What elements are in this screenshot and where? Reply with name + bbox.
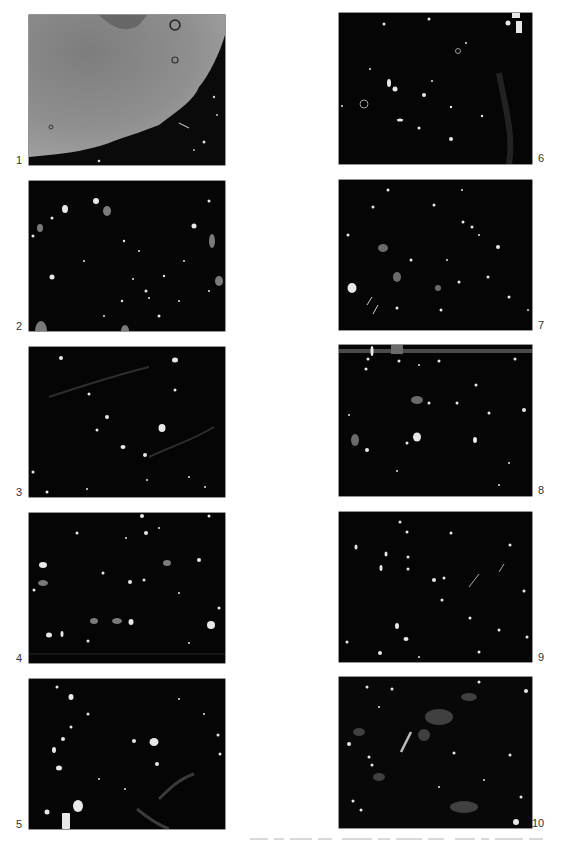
micrograph-panel-5	[29, 679, 225, 829]
panel-label-4: 4	[16, 653, 22, 664]
micrograph-panel-9	[339, 512, 532, 662]
micrograph-image-9	[339, 512, 532, 662]
panel-label-6: 6	[538, 153, 544, 164]
micrograph-image-1	[29, 15, 225, 165]
panel-label-9: 9	[538, 652, 544, 663]
micrograph-panel-1	[29, 15, 225, 165]
micrograph-panel-2	[29, 181, 225, 331]
micrograph-image-4	[29, 513, 225, 663]
micrograph-image-8	[339, 345, 532, 496]
panel-label-3: 3	[16, 487, 22, 498]
micrograph-panel-8	[339, 345, 532, 496]
micrograph-panel-3	[29, 347, 225, 497]
micrograph-image-5	[29, 679, 225, 829]
panel-label-10: 10	[532, 818, 544, 829]
micrograph-panel-7	[339, 180, 532, 330]
micrograph-figure: 1 2	[0, 0, 564, 845]
caption-fragment	[250, 838, 560, 845]
micrograph-panel-4	[29, 513, 225, 663]
micrograph-panel-6	[339, 13, 532, 164]
micrograph-panel-10	[339, 677, 532, 828]
panel-label-5: 5	[16, 819, 22, 830]
micrograph-image-2	[29, 181, 225, 331]
panel-label-7: 7	[538, 320, 544, 331]
micrograph-image-7	[339, 180, 532, 330]
panel-label-8: 8	[538, 485, 544, 496]
panel-label-1: 1	[16, 155, 22, 166]
micrograph-image-10	[339, 677, 532, 828]
micrograph-image-3	[29, 347, 225, 497]
panel-label-2: 2	[16, 321, 22, 332]
micrograph-image-6	[339, 13, 532, 164]
